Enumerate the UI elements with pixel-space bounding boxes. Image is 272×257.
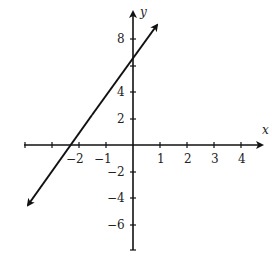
x-tick-label: 1 bbox=[157, 153, 165, 165]
y-tick-label: 8 bbox=[117, 33, 125, 45]
y-axis bbox=[130, 12, 136, 250]
x-axis bbox=[24, 142, 262, 148]
x-tick-label: 3 bbox=[211, 153, 219, 165]
x-tick-label: −2 bbox=[66, 153, 84, 165]
y-tick-label: −4 bbox=[107, 192, 125, 204]
line-series bbox=[28, 25, 157, 205]
y-tick-label: −6 bbox=[107, 219, 125, 231]
x-tick-label: 2 bbox=[184, 153, 192, 165]
y-axis-label: y bbox=[140, 6, 147, 18]
x-axis-label: x bbox=[262, 124, 269, 136]
plot-area bbox=[0, 0, 272, 257]
y-tick-label: −2 bbox=[107, 166, 125, 178]
y-tick-label: 2 bbox=[117, 113, 125, 125]
y-tick-label: 4 bbox=[117, 86, 125, 98]
x-tick-label: −1 bbox=[94, 153, 112, 165]
x-tick-label: 4 bbox=[238, 153, 246, 165]
